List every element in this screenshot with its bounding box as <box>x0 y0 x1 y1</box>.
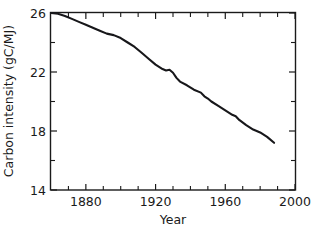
y-tick-label: 14 <box>30 183 46 198</box>
x-tick-label: 1880 <box>70 194 102 209</box>
x-tick-label: 1960 <box>209 194 241 209</box>
data-series-line <box>51 13 274 143</box>
y-axis-tick-labels: 14182226 <box>30 6 46 198</box>
x-tick-label: 2000 <box>279 194 311 209</box>
x-tick-label: 1920 <box>140 194 172 209</box>
x-axis-tick-labels: 1880192019602000 <box>70 194 311 209</box>
x-axis-ticks-top <box>68 13 295 19</box>
x-axis-title: Year <box>159 212 187 227</box>
x-axis-ticks-bottom <box>68 184 295 190</box>
plot-frame <box>51 13 296 191</box>
y-axis-title: Carbon intensity (gC/MJ) <box>1 25 16 177</box>
chart-figure: 1880192019602000 14182226 Year Carbon in… <box>0 0 313 232</box>
y-tick-label: 26 <box>30 6 46 21</box>
y-axis-ticks-right <box>289 13 295 190</box>
y-tick-label: 18 <box>30 124 46 139</box>
carbon-intensity-line-chart: 1880192019602000 14182226 Year Carbon in… <box>0 0 313 232</box>
y-axis-ticks-left <box>51 13 57 190</box>
y-tick-label: 22 <box>30 65 46 80</box>
